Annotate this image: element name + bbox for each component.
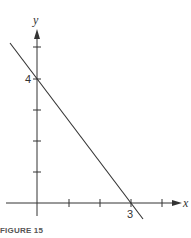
x-axis-arrow-icon [172,200,182,206]
y-axis-label: y [32,13,39,27]
figure-graph: y x 4 3 [0,0,191,238]
x-axis-label: x [182,196,189,210]
x-tick-label-3: 3 [127,208,133,220]
data-line [10,43,143,219]
y-axis-arrow-icon [34,29,40,39]
y-tick-label-4: 4 [25,73,31,85]
figure-caption: FIGURE 15 [0,226,43,235]
